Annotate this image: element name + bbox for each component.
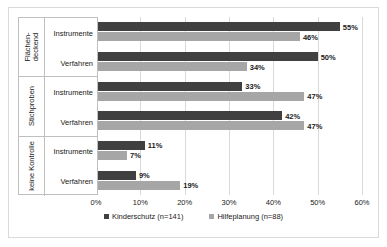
bar-row: 47%: [96, 92, 387, 101]
bar-value-label: 47%: [304, 121, 322, 130]
legend-swatch-icon: [104, 214, 109, 219]
bar-value-label: 9%: [136, 171, 150, 180]
bar-kinderschutz: [96, 22, 340, 31]
legend-label: Kinderschutz (n=141): [112, 212, 184, 221]
x-axis: 0%10%20%30%40%50%60%: [96, 195, 362, 209]
bar-kinderschutz: [96, 141, 145, 150]
bar-hilfeplanung: [96, 121, 304, 130]
x-tick-label: 0%: [91, 198, 102, 207]
bar-row: 19%: [96, 181, 387, 190]
group-axis-label: Stichproben: [19, 77, 45, 135]
group-axis-label: Flächen-deckend: [19, 18, 45, 76]
subcategory-labels: InstrumenteVerfahren: [45, 137, 97, 196]
group-axis-label: keine Kontrolle: [19, 137, 45, 196]
bar-value-label: 55%: [340, 22, 358, 31]
bar-kinderschutz: [96, 171, 136, 180]
category-group: StichprobenInstrumenteVerfahren: [19, 77, 97, 136]
x-tick-label: 40%: [266, 198, 281, 207]
chart-legend: Kinderschutz (n=141)Hilfeplanung (n=88): [9, 212, 378, 221]
bar-hilfeplanung: [96, 181, 180, 190]
bar-value-label: 11%: [145, 141, 163, 150]
bar-hilfeplanung: [96, 62, 247, 71]
bar-value-label: 46%: [300, 32, 318, 41]
chart-figure: 55%46%50%34%33%47%42%47%11%7%9%19% Fläch…: [8, 7, 379, 238]
group-axis-label-text: Stichproben: [28, 86, 36, 126]
subcategory-label: Verfahren: [45, 117, 93, 126]
subcategory-label: Instrumente: [45, 88, 93, 97]
x-tick-label: 20%: [177, 198, 192, 207]
bar-group: 11%7%9%19%: [96, 136, 362, 195]
bar-value-label: 50%: [318, 52, 336, 61]
x-tick-label: 50%: [310, 198, 325, 207]
group-axis-label-text: keine Kontrolle: [28, 142, 36, 192]
subcategory-labels: InstrumenteVerfahren: [45, 77, 97, 135]
bar-value-label: 7%: [127, 151, 141, 160]
x-tick-label: 30%: [221, 198, 236, 207]
subcategory-label: Verfahren: [45, 177, 93, 186]
legend-swatch-icon: [209, 214, 214, 219]
bar-value-label: 34%: [247, 62, 265, 71]
bar-row: 33%: [96, 82, 387, 91]
bar-row: 46%: [96, 32, 387, 41]
legend-label: Hilfeplanung (n=88): [217, 212, 283, 221]
legend-item[interactable]: Hilfeplanung (n=88): [209, 212, 283, 221]
category-panel: Flächen-deckendInstrumenteVerfahrenStich…: [18, 17, 98, 195]
bar-rows: 55%46%50%34%33%47%42%47%11%7%9%19%: [96, 17, 362, 195]
x-tick-label: 10%: [133, 198, 148, 207]
bar-value-label: 19%: [180, 181, 198, 190]
bar-group: 33%47%42%47%: [96, 76, 362, 135]
subcategory-label: Verfahren: [45, 58, 93, 67]
bar-value-label: 47%: [304, 92, 322, 101]
subcategory-label: Instrumente: [45, 28, 93, 37]
bar-kinderschutz: [96, 111, 282, 120]
category-group: Flächen-deckendInstrumenteVerfahren: [19, 18, 97, 77]
bar-hilfeplanung: [96, 92, 304, 101]
bar-kinderschutz: [96, 82, 242, 91]
bar-value-label: 33%: [242, 82, 260, 91]
plot-area: 55%46%50%34%33%47%42%47%11%7%9%19%: [96, 17, 362, 195]
bar-group: 55%46%50%34%: [96, 17, 362, 76]
bar-row: 55%: [96, 22, 387, 31]
legend-item[interactable]: Kinderschutz (n=141): [104, 212, 184, 221]
bar-row: 7%: [96, 151, 387, 160]
bar-hilfeplanung: [96, 32, 300, 41]
bar-kinderschutz: [96, 52, 318, 61]
x-tick-label: 60%: [354, 198, 369, 207]
bar-row: 47%: [96, 121, 387, 130]
group-axis-label-text: Flächen-deckend: [24, 33, 40, 62]
bar-row: 11%: [96, 141, 387, 150]
subcategory-label: Instrumente: [45, 147, 93, 156]
category-group: keine KontrolleInstrumenteVerfahren: [19, 137, 97, 196]
bar-value-label: 42%: [282, 111, 300, 120]
bar-row: 42%: [96, 111, 387, 120]
subcategory-labels: InstrumenteVerfahren: [45, 18, 97, 76]
bar-row: 50%: [96, 52, 387, 61]
bar-row: 9%: [96, 171, 387, 180]
gridline-60%: [362, 17, 363, 195]
bar-row: 34%: [96, 62, 387, 71]
bar-hilfeplanung: [96, 151, 127, 160]
